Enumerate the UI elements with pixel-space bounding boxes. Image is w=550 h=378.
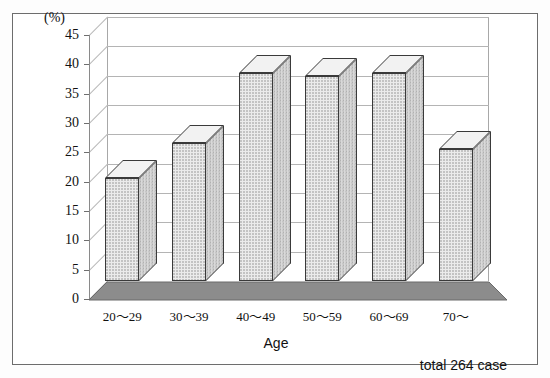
bar-3 [305,76,339,281]
y-tick-10 [84,240,89,241]
x-axis-label-5: 70〜 [411,309,501,324]
gridline-5 [107,252,489,253]
chart-frame: (%) 051015202530354045 20〜2930〜3940〜4950… [12,13,538,365]
y-axis-line [89,35,90,299]
bar-side-face [473,131,491,281]
plot-area [89,17,507,299]
bar-1 [172,143,206,281]
depth-line-45 [89,17,108,36]
y-tick-0 [84,299,89,300]
y-axis-label-40: 40 [45,57,79,71]
y-axis-label-5: 5 [45,263,79,277]
y-tick-45 [84,35,89,36]
y-tick-15 [84,211,89,212]
y-axis-label-25: 25 [45,145,79,159]
plot-back-wall [107,17,489,281]
bar-front-face [439,149,473,281]
y-axis-label-10: 10 [45,233,79,247]
bar-side-face [206,125,224,281]
y-axis-unit-label: (%) [44,11,65,25]
bar-5 [439,149,473,281]
y-tick-40 [84,64,89,65]
bar-0 [105,178,139,281]
y-axis-label-35: 35 [45,87,79,101]
depth-line-40 [89,46,108,65]
y-tick-35 [84,94,89,95]
bar-front-face [239,73,273,281]
y-tick-20 [84,182,89,183]
y-axis-label-15: 15 [45,204,79,218]
bar-side-face [406,55,424,281]
y-axis-label-0: 0 [45,292,79,306]
gridline-10 [107,222,489,223]
x-axis-title: Age [13,335,539,351]
y-tick-30 [84,123,89,124]
total-annotation: total 264 case [420,357,507,373]
y-tick-5 [84,270,89,271]
y-axis-label-45: 45 [45,28,79,42]
bar-front-face [305,76,339,281]
bar-side-face [273,55,291,281]
chart-floor [89,281,507,299]
gridline-15 [107,193,489,194]
bar-front-face [172,143,206,281]
depth-line-25 [89,134,108,153]
gridline-40 [107,46,489,47]
bar-side-face [339,58,357,281]
y-axis-label-20: 20 [45,175,79,189]
bar-side-face [139,160,157,281]
gridline-20 [107,164,489,165]
gridline-35 [107,76,489,77]
y-axis-label-30: 30 [45,116,79,130]
depth-line-35 [89,75,108,94]
y-tick-25 [84,152,89,153]
gridline-25 [107,134,489,135]
bar-4 [372,73,406,281]
bar-front-face [105,178,139,281]
gridline-45 [107,17,489,18]
bar-2 [239,73,273,281]
figure: (%) 051015202530354045 20〜2930〜3940〜4950… [0,0,550,378]
bar-front-face [372,73,406,281]
depth-line-30 [89,105,108,124]
gridline-30 [107,105,489,106]
